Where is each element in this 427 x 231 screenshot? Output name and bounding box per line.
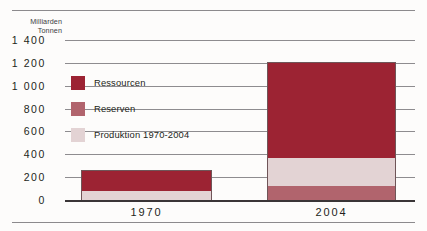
y-tick-label-1400: 1 400 [0,34,46,46]
legend-swatch-icon [71,76,85,90]
chart-legend: RessourcenReservenProduktion 1970-2004 [71,73,189,151]
y-tick-label-600: 600 [0,125,46,137]
x-category-label-2004: 2004 [315,206,347,218]
legend-swatch-icon [71,128,85,142]
legend-label: Produktion 1970-2004 [94,129,189,140]
legend-label: Ressourcen [94,77,146,88]
legend-item-2[interactable]: Produktion 1970-2004 [71,125,189,144]
bottom-divider-rule [12,222,415,223]
legend-swatch-icon [71,102,85,116]
x-category-label-1970: 1970 [130,206,162,218]
y-tick-label-200: 200 [0,171,46,183]
y-tick-label-1000: 1 000 [0,80,46,92]
bar-segment-1970-produktion[interactable] [81,191,212,200]
top-divider-rule [12,10,415,11]
y-tick-label-1200: 1 200 [0,57,46,69]
bar-segment-1970-ressourcen[interactable] [81,170,212,191]
y-axis-title: Milliarden Tonnen [0,17,62,36]
y-tick-label-0: 0 [0,194,46,206]
legend-item-0[interactable]: Ressourcen [71,73,189,92]
legend-item-1[interactable]: Reserven [71,99,189,118]
y-tick-label-800: 800 [0,103,46,115]
chart-figure: Milliarden Tonnen 02004006008001 0001 20… [0,0,427,231]
bar-segment-2004-produktion[interactable] [267,158,396,186]
x-axis-baseline [65,200,415,202]
legend-label: Reserven [94,103,135,114]
bar-segment-2004-reserven[interactable] [267,186,396,200]
bar-segment-2004-ressourcen[interactable] [267,62,396,158]
y-tick-label-400: 400 [0,148,46,160]
bar-2004[interactable] [267,40,396,200]
